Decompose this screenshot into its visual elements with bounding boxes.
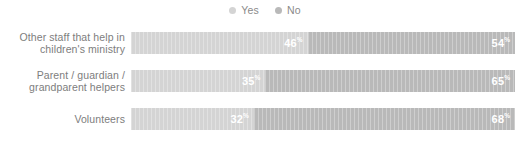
bar-value-label: 35% [242, 75, 265, 87]
bar-value-label: 54% [492, 37, 515, 49]
chart-row: Volunteers 32% 68% [0, 100, 530, 138]
row-label: Other staff that help in children's mini… [0, 31, 131, 56]
row-label-line: children's ministry [0, 43, 125, 56]
bar-segment-yes[interactable]: 35% [131, 70, 265, 92]
circle-dot-icon [229, 7, 236, 14]
legend-label-yes: Yes [241, 5, 259, 16]
chart-row: Parent / guardian / grandparent helpers … [0, 62, 530, 100]
row-label-line: Parent / guardian / [0, 69, 125, 82]
row-label: Volunteers [0, 113, 131, 126]
chart-rows: Other staff that help in children's mini… [0, 24, 530, 138]
legend-label-no: No [287, 5, 301, 16]
bar-segment-yes[interactable]: 46% [131, 32, 308, 54]
legend-item-yes[interactable]: Yes [229, 5, 259, 16]
chart-row: Other staff that help in children's mini… [0, 24, 530, 62]
bar-segment-yes[interactable]: 32% [131, 108, 254, 130]
bar-track: 46% 54% [131, 32, 515, 54]
bar-segment-no[interactable]: 68% [254, 108, 515, 130]
bar-value-label: 32% [230, 113, 253, 125]
bar-value-label: 68% [492, 113, 515, 125]
row-label-line: grandparent helpers [0, 81, 125, 94]
bar-value-label: 65% [492, 75, 515, 87]
bar-track: 35% 65% [131, 70, 515, 92]
stacked-bar-chart: Yes No Other staff that help in children… [0, 0, 530, 141]
row-label: Parent / guardian / grandparent helpers [0, 69, 131, 94]
legend-item-no[interactable]: No [275, 5, 301, 16]
bar-segment-no[interactable]: 65% [265, 70, 515, 92]
bar-track: 32% 68% [131, 108, 515, 130]
row-label-line: Other staff that help in [0, 31, 125, 44]
chart-legend: Yes No [0, 0, 530, 20]
bar-segment-no[interactable]: 54% [308, 32, 515, 54]
row-label-line: Volunteers [0, 113, 125, 126]
bar-value-label: 46% [284, 37, 307, 49]
circle-dot-icon [275, 7, 282, 14]
